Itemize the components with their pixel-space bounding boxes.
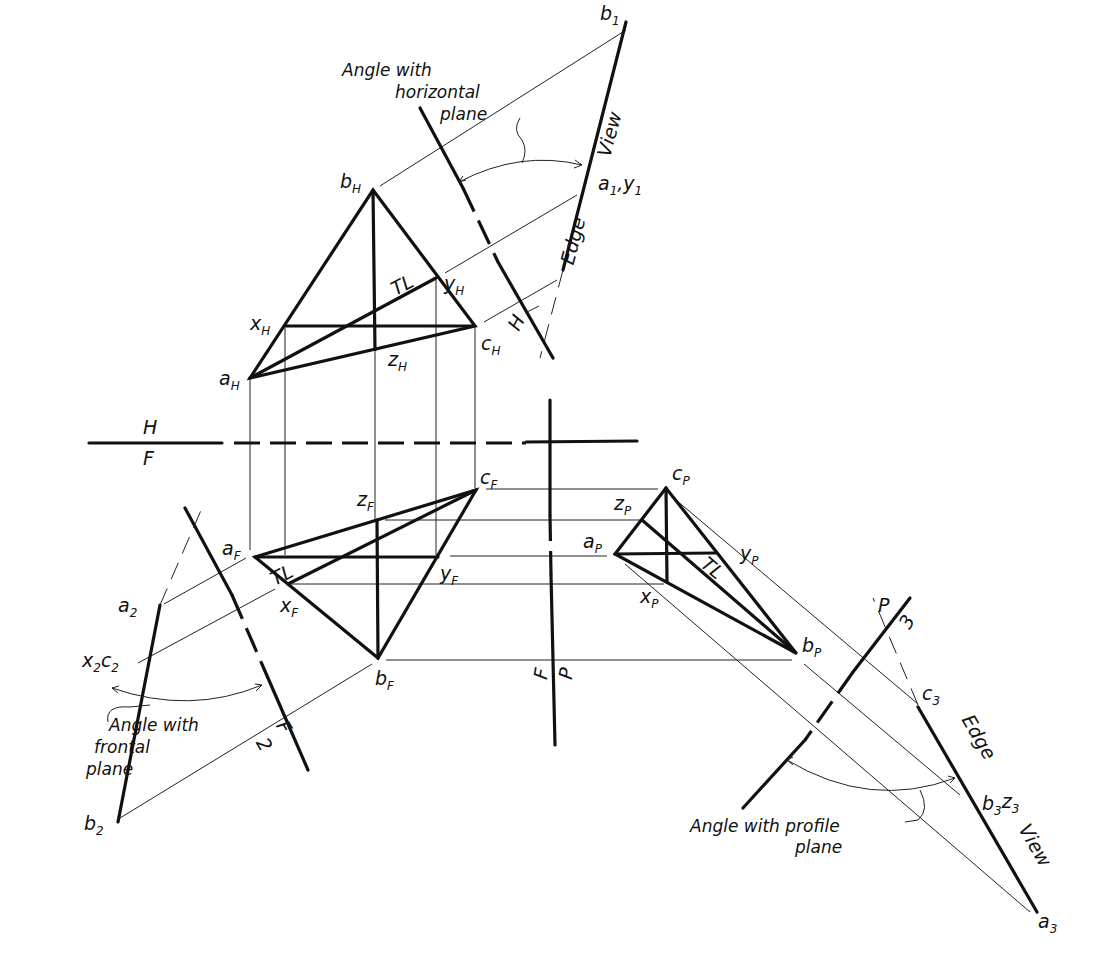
aux-view-3: c3 b3z3 a3 Edge View Angle with profile … <box>689 598 1057 936</box>
svg-text:zP: zP <box>613 492 632 518</box>
svg-text:a2: a2 <box>118 594 137 620</box>
svg-text:H: H <box>143 416 157 438</box>
label-y-h: yH <box>443 272 464 298</box>
svg-text:b3z3: b3z3 <box>982 790 1019 818</box>
fold-line-fp: F P <box>529 400 578 745</box>
svg-text:horizontal: horizontal <box>395 82 480 102</box>
svg-text:F: F <box>143 447 155 469</box>
svg-text:aP: aP <box>583 530 603 556</box>
svg-text:View: View <box>1015 820 1057 871</box>
label-b-h: bH <box>340 170 361 196</box>
svg-text:H: H <box>503 311 529 334</box>
svg-text:plane: plane <box>85 759 133 779</box>
svg-text:x2c2: x2c2 <box>81 649 119 675</box>
svg-text:aF: aF <box>222 537 242 563</box>
fold-line-hf: H F <box>89 416 637 469</box>
svg-text:P: P <box>554 665 578 681</box>
fold-line-p3: P 3 <box>743 594 919 808</box>
svg-text:2: 2 <box>252 733 277 754</box>
label-c-h: cH <box>481 332 500 358</box>
projection-lines <box>120 30 1030 912</box>
top-view-triangle: bH cH aH xH yH zH TL <box>219 170 500 393</box>
svg-text:plane: plane <box>794 837 842 857</box>
svg-text:b1: b1 <box>600 2 620 28</box>
svg-text:c3: c3 <box>922 682 940 708</box>
descriptive-geometry-drawing: H F F P H F 2 P 3 bH cH aH xH <box>0 0 1102 964</box>
svg-text:F: F <box>529 665 553 681</box>
svg-text:a3: a3 <box>1038 910 1057 936</box>
label-x-h: xH <box>249 312 270 338</box>
svg-text:TL: TL <box>697 552 728 583</box>
svg-text:xF: xF <box>279 594 299 620</box>
front-view-triangle: aF cF bF zF yF xF TL <box>222 466 498 693</box>
label-tl-h: TL <box>387 270 417 300</box>
svg-text:frontal: frontal <box>94 737 150 757</box>
svg-text:cF: cF <box>480 466 498 492</box>
svg-text:Angle with: Angle with <box>108 715 199 735</box>
svg-text:Edge: Edge <box>958 711 1001 763</box>
svg-text:3: 3 <box>894 611 919 632</box>
svg-text:cP: cP <box>672 462 690 488</box>
svg-text:bP: bP <box>802 634 822 660</box>
svg-text:plane: plane <box>439 104 487 124</box>
svg-text:Edge: Edge <box>556 215 590 267</box>
svg-text:a1,y1: a1,y1 <box>598 172 642 198</box>
label-z-h: zH <box>387 348 407 374</box>
svg-text:b2: b2 <box>84 812 104 838</box>
label-a-h: aH <box>219 367 240 393</box>
svg-text:yP: yP <box>739 542 759 568</box>
svg-text:View: View <box>593 109 626 159</box>
svg-text:bF: bF <box>375 667 395 693</box>
svg-text:P: P <box>878 594 890 616</box>
svg-text:Angle with: Angle with <box>341 60 432 80</box>
svg-text:Angle with profile: Angle with profile <box>689 816 840 836</box>
svg-text:xP: xP <box>639 585 659 611</box>
svg-text:zF: zF <box>356 488 375 514</box>
svg-text:TL: TL <box>267 560 297 590</box>
